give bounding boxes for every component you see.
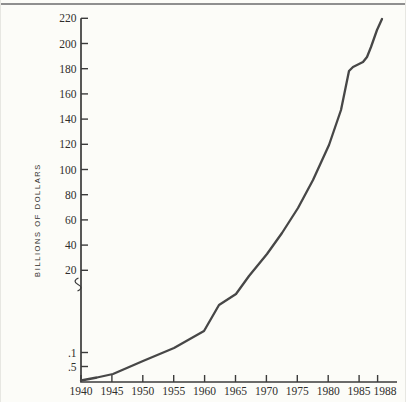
- x-tick-label: 1985: [348, 385, 371, 397]
- y-tick-label: 140: [59, 113, 77, 125]
- y-tick-label: .1: [68, 347, 77, 359]
- y-tick-label: 100: [59, 164, 77, 176]
- x-tick-label: 1970: [255, 385, 278, 397]
- y-tick-label: 80: [65, 189, 77, 201]
- top-rule: [1, 3, 405, 5]
- x-tick-label: 1988: [374, 385, 397, 397]
- y-tick-label: 60: [65, 214, 77, 226]
- y-tick-label: 20: [65, 264, 77, 276]
- y-tick-label: 160: [59, 88, 77, 100]
- x-tick-label: 1965: [224, 385, 247, 397]
- x-tick-label: 1955: [162, 385, 185, 397]
- line-chart: 22020018016014012010080604020.1.51940194…: [1, 0, 405, 402]
- y-tick-label: 180: [59, 63, 77, 75]
- y-axis-title: BILLIONS OF DOLLARS: [33, 160, 45, 280]
- x-tick-label: 1960: [193, 385, 216, 397]
- x-tick-label: 1950: [131, 385, 154, 397]
- x-tick-label: 1980: [317, 385, 340, 397]
- data-curve: [81, 19, 382, 381]
- axis-break-mark: [75, 278, 81, 291]
- y-tick-label: 220: [59, 12, 77, 24]
- x-tick-label: 1945: [100, 385, 123, 397]
- book-figure: BILLIONS OF DOLLARS 22020018016014012010…: [0, 0, 406, 402]
- x-tick-label: 1940: [70, 385, 93, 397]
- x-tick-label: 1975: [286, 385, 309, 397]
- y-tick-label: .5: [68, 361, 77, 373]
- y-tick-label: 120: [59, 138, 77, 150]
- y-tick-label: 200: [59, 38, 77, 50]
- y-tick-label: 40: [65, 239, 77, 251]
